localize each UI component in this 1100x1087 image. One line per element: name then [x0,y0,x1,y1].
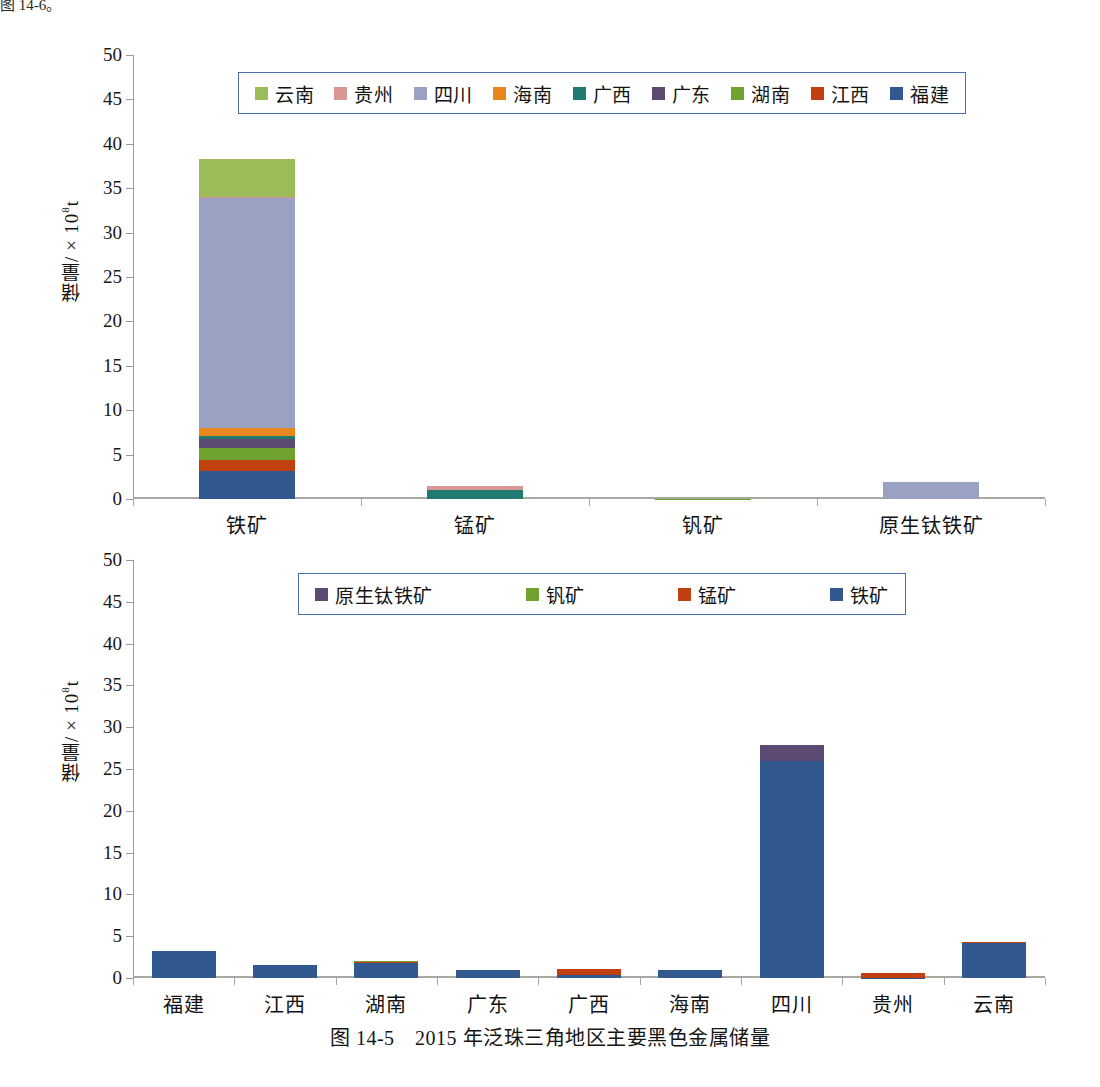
legend-swatch-icon [526,588,539,601]
x-tick [133,978,134,985]
x-category-label: 云南 [973,989,1015,1018]
bar-原生钛铁矿 [883,482,979,499]
x-category-label: 锰矿 [454,510,496,539]
legend-item-铁矿[interactable]: 铁矿 [830,581,889,608]
y-tick-label: 40 [103,133,122,155]
y-axis-line-bottom [133,560,134,978]
x-category-label: 广西 [568,989,610,1018]
bar-segment-四川 [199,197,295,428]
y-tick [126,644,133,645]
bar-铁矿 [199,159,295,499]
x-category-label: 铁矿 [226,510,268,539]
bar-segment-海南 [199,428,295,436]
y-tick [126,455,133,456]
bar-segment-贵州 [427,486,523,490]
bar-segment-锰矿 [962,942,1026,944]
x-tick [133,499,134,506]
legend-item-广西[interactable]: 广西 [573,80,632,107]
legend-swatch-icon [315,588,328,601]
x-category-label: 海南 [669,989,711,1018]
bar-segment-铁矿 [456,970,520,978]
y-tick-label: 40 [103,633,122,655]
legend-item-钒矿[interactable]: 钒矿 [526,581,585,608]
y-tick-label: 50 [103,44,122,66]
legend-label: 广东 [672,80,711,107]
x-category-label: 贵州 [872,989,914,1018]
legend-top[interactable]: 云南贵州四川海南广西广东湖南江西福建 [238,72,966,114]
x-category-label: 湖南 [365,989,407,1018]
legend-label: 锰矿 [698,581,737,608]
y-tick [126,685,133,686]
legend-bottom[interactable]: 原生钛铁矿钒矿锰矿铁矿 [298,573,906,615]
y-tick-label: 30 [103,222,122,244]
legend-swatch-icon [830,588,843,601]
y-axis-line-top [133,55,134,499]
x-tick [640,978,641,985]
y-axis-title-top: 储量/×108t [58,200,85,302]
legend-label: 广西 [593,80,632,107]
legend-item-福建[interactable]: 福建 [890,80,949,107]
y-tick [126,188,133,189]
y-tick [126,99,133,100]
legend-item-原生钛铁矿[interactable]: 原生钛铁矿 [315,581,433,608]
y-tick-label: 25 [103,758,122,780]
legend-swatch-icon [255,87,268,100]
x-tick [437,978,438,985]
x-tick [1045,978,1046,985]
bar-segment-江西 [199,460,295,471]
legend-item-四川[interactable]: 四川 [414,80,473,107]
bar-segment-锰矿 [861,973,925,977]
y-tick-label: 35 [103,177,122,199]
top-text-fragment: 图 14-6。 [0,0,120,14]
legend-swatch-icon [731,87,744,100]
bar-segment-锰矿 [557,969,621,976]
legend-item-江西[interactable]: 江西 [811,80,870,107]
x-category-label: 四川 [771,989,813,1018]
x-category-label: 钒矿 [682,510,724,539]
y-tick-label: 0 [113,488,123,510]
legend-swatch-icon [493,87,506,100]
y-tick-label: 30 [103,716,122,738]
y-tick [126,560,133,561]
x-tick [1045,499,1046,506]
y-tick [126,277,133,278]
bar-四川 [760,745,824,978]
chart-bottom: 储量/×108t 05101520253035404550福建江西湖南广东广西海… [0,545,1100,1035]
legend-swatch-icon [678,588,691,601]
legend-item-锰矿[interactable]: 锰矿 [678,581,737,608]
legend-item-云南[interactable]: 云南 [255,80,314,107]
legend-item-贵州[interactable]: 贵州 [334,80,393,107]
y-tick [126,410,133,411]
legend-item-湖南[interactable]: 湖南 [731,80,790,107]
bar-segment-湖南 [199,448,295,460]
y-tick [126,853,133,854]
y-tick [126,978,133,979]
legend-label: 江西 [831,80,870,107]
bar-海南 [658,970,722,978]
y-tick [126,366,133,367]
y-tick-label: 25 [103,266,122,288]
legend-label: 云南 [275,80,314,107]
y-tick-label: 5 [113,444,123,466]
chart-top: 储量/×108t 05101520253035404550铁矿锰矿钒矿原生钛铁矿… [0,40,1100,540]
bar-湖南 [354,961,418,978]
bar-segment-广西 [199,436,295,439]
y-tick [126,727,133,728]
x-tick [817,499,818,506]
legend-swatch-icon [414,87,427,100]
x-category-label: 广东 [467,989,509,1018]
legend-label: 贵州 [354,80,393,107]
legend-item-海南[interactable]: 海南 [493,80,552,107]
y-axis-title-bottom: 储量/×108t [58,680,85,782]
bar-segment-铁矿 [658,970,722,978]
legend-item-广东[interactable]: 广东 [652,80,711,107]
legend-swatch-icon [811,87,824,100]
bar-云南 [962,942,1026,978]
y-tick [126,55,133,56]
legend-label: 原生钛铁矿 [335,581,433,608]
y-tick [126,936,133,937]
y-tick-label: 5 [113,925,123,947]
bar-segment-原生钛铁矿 [760,745,824,761]
x-category-label: 福建 [163,989,205,1018]
bar-锰矿 [427,486,523,499]
